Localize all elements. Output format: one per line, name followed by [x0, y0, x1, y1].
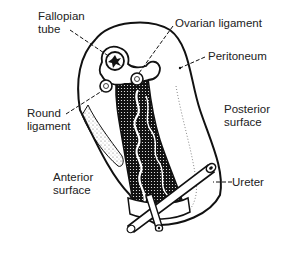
label-ovarian-ligament: Ovarian ligament — [175, 17, 262, 30]
label-round-ligament: Round ligament — [27, 107, 70, 133]
round-ligament-circle — [100, 80, 112, 92]
label-fallopian-tube: Fallopian tube — [38, 10, 85, 36]
label-posterior-surface: Posterior surface — [224, 103, 270, 129]
label-ureter: Ureter — [232, 176, 264, 189]
ovarian-ligament-circle — [131, 73, 143, 85]
label-peritoneum: Peritoneum — [208, 50, 267, 63]
label-anterior-surface: Anterior surface — [53, 171, 93, 197]
diagram-canvas: Fallopian tube Ovarian ligament Peritone… — [0, 0, 288, 260]
